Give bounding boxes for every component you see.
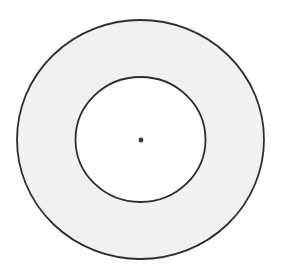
center-point — [139, 138, 144, 143]
diagram-svg — [0, 0, 285, 278]
concentric-circles-diagram — [0, 0, 285, 278]
